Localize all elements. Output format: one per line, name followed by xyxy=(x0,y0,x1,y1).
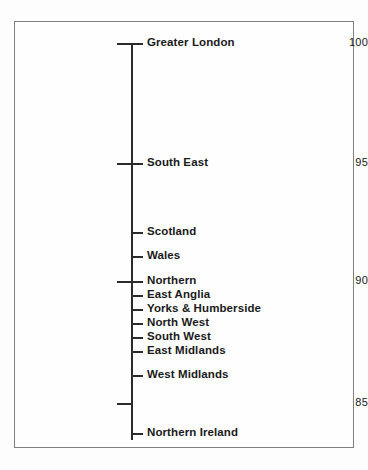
data-label-northern: Northern xyxy=(147,274,196,286)
data-tick xyxy=(132,351,143,353)
data-label-east-midlands: East Midlands xyxy=(147,344,226,356)
figure-canvas: 100 95 90 85 Greater London South East S… xyxy=(0,0,368,470)
data-tick xyxy=(132,433,143,435)
data-label-northern-ireland: Northern Ireland xyxy=(147,426,238,438)
data-tick xyxy=(132,323,143,325)
data-label-south-east: South East xyxy=(147,156,208,168)
axis-tick-label-95: 95 xyxy=(272,156,368,168)
axis-tick-95 xyxy=(117,163,132,165)
data-label-greater-london: Greater London xyxy=(147,36,235,48)
data-label-north-west: North West xyxy=(147,316,209,328)
data-label-wales: Wales xyxy=(147,249,180,261)
data-tick xyxy=(132,281,143,283)
axis-tick-90 xyxy=(117,281,132,283)
data-tick xyxy=(132,337,143,339)
data-tick xyxy=(132,163,143,165)
data-tick xyxy=(132,232,143,234)
data-label-scotland: Scotland xyxy=(147,225,196,237)
axis-tick-label-85: 85 xyxy=(272,396,368,408)
axis-tick-label-90: 90 xyxy=(272,274,368,286)
axis-tick-label-100: 100 xyxy=(272,36,368,48)
data-tick xyxy=(132,309,143,311)
data-label-yorks-humberside: Yorks & Humberside xyxy=(147,302,261,314)
data-label-south-west: South West xyxy=(147,330,211,342)
value-axis-line xyxy=(131,43,133,440)
data-tick xyxy=(132,256,143,258)
data-tick xyxy=(132,375,143,377)
axis-tick-100 xyxy=(117,43,132,45)
data-tick xyxy=(132,43,143,45)
axis-tick-85 xyxy=(117,403,132,405)
data-tick xyxy=(132,295,143,297)
data-label-east-anglia: East Anglia xyxy=(147,288,210,300)
data-label-west-midlands: West Midlands xyxy=(147,368,229,380)
